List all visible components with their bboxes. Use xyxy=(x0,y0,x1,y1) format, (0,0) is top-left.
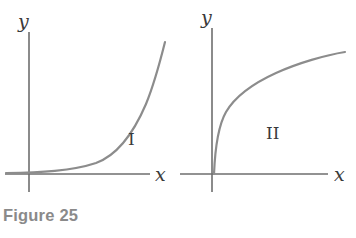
y-axis-label-one: y xyxy=(17,10,29,32)
plot-panel-two: y x II xyxy=(178,0,356,200)
plot-svg-two: y x II xyxy=(178,0,356,200)
figure-caption: Figure 25 xyxy=(3,206,78,225)
logarithmic-curve xyxy=(214,52,345,174)
figure-25: y x I y x II Figure 25 xyxy=(0,0,356,238)
curve-label-two: II xyxy=(266,123,279,143)
y-axis-label-two: y xyxy=(200,6,212,28)
curve-label-one: I xyxy=(128,129,135,149)
x-axis-label-two: x xyxy=(334,163,345,185)
exponential-curve xyxy=(6,42,165,173)
plot-svg-one: y x I xyxy=(0,0,178,200)
plot-panel-one: y x I xyxy=(0,0,178,200)
x-axis-label-one: x xyxy=(155,163,166,185)
